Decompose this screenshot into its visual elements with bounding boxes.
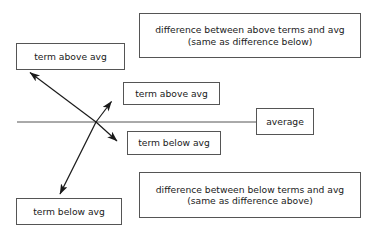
box-term-below-avg-left: term below avg (16, 198, 122, 225)
box-difference-above: difference between above terms and avg (… (139, 13, 361, 58)
box-difference-below: difference between below terms and avg (… (139, 172, 361, 218)
box-term-above-avg-middle: term above avg (123, 82, 220, 105)
arrow-below-segment-upper (96, 102, 112, 123)
diagram-canvas: difference between above terms and avg (… (0, 0, 374, 238)
box-term-below-avg-middle: term below avg (127, 131, 221, 155)
arrow-below-segment (60, 122, 96, 194)
box-term-above-avg-left: term above avg (16, 43, 125, 70)
arrow-above-segment (30, 73, 96, 123)
box-average: average (256, 108, 314, 135)
arrow-above-segment-lower (96, 122, 117, 141)
